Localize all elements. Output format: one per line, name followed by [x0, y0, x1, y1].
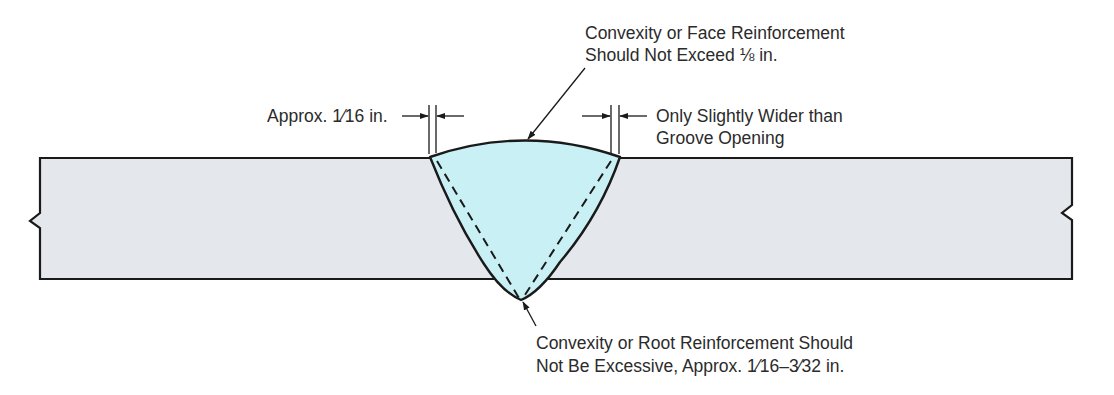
toe-right-label-line2: Groove Opening: [656, 127, 784, 149]
root-reinforcement-leader: [523, 302, 536, 326]
toe-right-label-line1: Only Slightly Wider than: [656, 105, 843, 127]
toe-left-label: Approx. 1⁄16 in.: [267, 105, 388, 127]
root-reinforcement-label-line1: Convexity or Root Reinforcement Should: [536, 332, 853, 354]
root-reinforcement-label-line2: Not Be Excessive, Approx. 1⁄16–3⁄32 in.: [536, 355, 844, 377]
face-reinforcement-label-line1: Convexity or Face Reinforcement: [585, 22, 845, 44]
face-reinforcement-leader: [528, 68, 585, 139]
face-reinforcement-label-line2: Should Not Exceed ⅛ in.: [585, 44, 778, 66]
